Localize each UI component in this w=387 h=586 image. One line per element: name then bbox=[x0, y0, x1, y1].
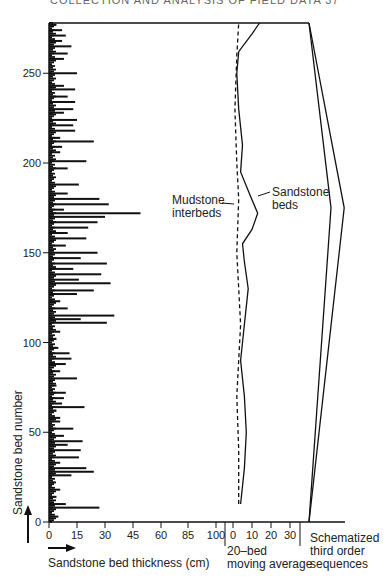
mavg-tick-label: 20 bbox=[265, 529, 277, 541]
bed-bar bbox=[49, 216, 105, 218]
y-tick-label: 200 bbox=[23, 157, 41, 169]
y-tick-label: 100 bbox=[23, 337, 41, 349]
mudstone-label-1: Mudstone bbox=[172, 193, 225, 207]
bed-bar bbox=[49, 119, 77, 121]
bed-bar bbox=[49, 29, 62, 31]
bed-bar bbox=[49, 108, 73, 110]
bed-bar bbox=[49, 263, 107, 265]
sandstone-beds-label-1: Sandstone bbox=[272, 185, 330, 199]
bed-bar bbox=[49, 435, 64, 437]
schematic-label-1: Schematized bbox=[310, 531, 379, 545]
bed-bar bbox=[49, 420, 60, 422]
bed-bar bbox=[49, 209, 64, 211]
bed-bar bbox=[49, 358, 71, 360]
bed-bar bbox=[49, 482, 55, 484]
moving-average-label-1: 20–bed bbox=[227, 544, 267, 558]
bed-bar bbox=[49, 146, 62, 148]
sequence-envelope bbox=[309, 23, 331, 522]
x-tick-label: 0 bbox=[46, 529, 52, 541]
bed-bar bbox=[49, 160, 86, 162]
bed-bar bbox=[49, 193, 68, 195]
mudstone-label-2: interbeds bbox=[172, 206, 221, 220]
bed-bar bbox=[49, 184, 79, 186]
bed-bar bbox=[49, 85, 64, 87]
bed-bar bbox=[49, 245, 66, 247]
bed-bar bbox=[49, 35, 66, 37]
bed-bar bbox=[49, 474, 71, 476]
bed-bar bbox=[49, 124, 73, 126]
bed-bar bbox=[49, 279, 79, 281]
bed-bar bbox=[49, 232, 68, 234]
bed-bar bbox=[49, 212, 140, 214]
up-arrow-icon bbox=[24, 505, 32, 543]
x-tick-label: 30 bbox=[99, 529, 111, 541]
bed-bar bbox=[49, 24, 56, 26]
y-tick-label: 0 bbox=[35, 516, 41, 528]
y-tick-label: 50 bbox=[29, 426, 41, 438]
bed-bar bbox=[49, 496, 56, 498]
bed-bar bbox=[49, 130, 75, 132]
bed-bar bbox=[49, 370, 60, 372]
bed-bar bbox=[49, 282, 111, 284]
bed-bar bbox=[49, 444, 68, 446]
x-tick-label: 60 bbox=[155, 529, 167, 541]
bed-bar bbox=[49, 221, 98, 223]
bed-bar bbox=[49, 112, 64, 114]
bed-bar bbox=[49, 53, 68, 55]
sandstone-leader bbox=[258, 192, 270, 196]
bed-bar bbox=[49, 318, 81, 320]
bed-bar bbox=[49, 410, 56, 412]
bed-bar bbox=[49, 347, 58, 349]
bed-bar bbox=[49, 315, 114, 317]
bed-bar bbox=[49, 58, 64, 60]
bed-bar bbox=[49, 397, 64, 399]
bed-bar bbox=[49, 471, 94, 473]
stratigraphic-figure: 050100150200250015304560851000102030 San… bbox=[0, 0, 387, 586]
bed-bar bbox=[49, 385, 56, 387]
bed-bar bbox=[49, 456, 79, 458]
x-tick-label: 100 bbox=[207, 529, 225, 541]
bed-bar bbox=[49, 268, 73, 270]
sandstone-line bbox=[237, 23, 260, 504]
bed-bar bbox=[49, 507, 99, 509]
bed-bar bbox=[49, 167, 68, 169]
bed-bar bbox=[49, 322, 107, 324]
moving-average-lines bbox=[235, 23, 260, 504]
moving-average-label-2: moving average bbox=[227, 557, 313, 571]
bed-bar bbox=[49, 101, 75, 103]
bed-bar bbox=[49, 449, 81, 451]
bed-bar bbox=[49, 300, 60, 302]
bed-bar bbox=[49, 377, 77, 379]
mavg-tick-label: 10 bbox=[246, 529, 258, 541]
bed-bar bbox=[49, 293, 77, 295]
bed-bar bbox=[49, 252, 98, 254]
bed-bar bbox=[49, 88, 75, 90]
schematic-label-3: sequences bbox=[310, 557, 368, 571]
bed-bar bbox=[49, 403, 62, 405]
schematic-sequences bbox=[309, 23, 344, 522]
y-axis-label-line1: Sandstone bed number bbox=[11, 390, 25, 515]
mavg-tick-label: 30 bbox=[284, 529, 296, 541]
right-arrow-icon bbox=[48, 544, 76, 552]
bed-bar bbox=[49, 392, 66, 394]
bed-bar bbox=[49, 45, 71, 47]
bed-bar bbox=[49, 40, 62, 42]
bed-bar bbox=[49, 417, 60, 419]
bed-bar bbox=[49, 331, 60, 333]
bed-bar bbox=[49, 503, 66, 505]
mavg-tick-label: 0 bbox=[230, 529, 236, 541]
bed-bar bbox=[49, 273, 101, 275]
x-tick-label: 45 bbox=[127, 529, 139, 541]
y-tick-label: 150 bbox=[23, 247, 41, 259]
y-tick-label: 250 bbox=[23, 67, 41, 79]
bed-bar bbox=[49, 203, 109, 205]
bed-bar bbox=[49, 72, 77, 74]
bed-bar bbox=[49, 137, 60, 139]
bed-bar bbox=[49, 352, 70, 354]
bed-bar bbox=[49, 151, 60, 153]
bed-bar bbox=[49, 257, 81, 259]
bed-bar bbox=[49, 289, 94, 291]
bed-bar bbox=[49, 338, 56, 340]
bed-thickness-bars bbox=[49, 22, 140, 523]
bed-bar bbox=[49, 489, 60, 491]
